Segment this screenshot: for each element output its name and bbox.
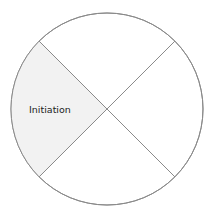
segment-label-left: Initiation xyxy=(29,104,71,115)
quartered-circle-diagram: Initiation xyxy=(0,0,213,209)
